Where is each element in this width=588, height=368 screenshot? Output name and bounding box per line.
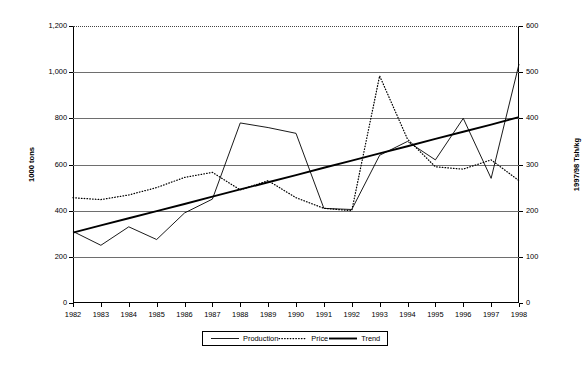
chart-container: 1000 tons 1997/98 Tsh/kg 02004006008001,… <box>0 0 588 368</box>
legend-item-production: Production <box>210 335 278 342</box>
legend-label: Production <box>243 335 278 342</box>
series-line-production <box>73 64 519 245</box>
legend-label: Price <box>311 335 328 342</box>
chart-legend: ProductionPriceTrend <box>202 331 388 346</box>
legend-label: Trend <box>361 335 380 342</box>
series-line-price <box>73 76 519 211</box>
legend-item-price: Price <box>278 335 328 342</box>
series-lines <box>0 0 588 368</box>
legend-item-trend: Trend <box>328 335 380 342</box>
legend-swatch-trend-icon <box>328 335 358 342</box>
legend-swatch-price-icon <box>278 335 308 342</box>
legend-swatch-production-icon <box>210 335 240 342</box>
